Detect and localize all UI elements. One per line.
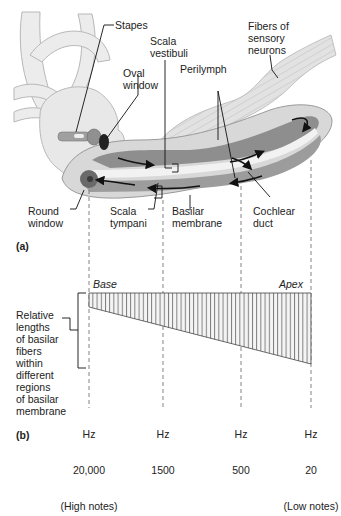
freq-note: (Low notes) [281,500,341,512]
freq-note: (High notes) [59,500,119,512]
freq-unit: Hz [133,428,193,440]
label-base: Base [93,278,117,290]
label-basilar-membrane: Basilar membrane [172,205,222,229]
basilar-fiber-length-wedge [89,293,311,364]
label-relative-lengths: Relative lengths of basilar fibers withi… [16,309,66,417]
label-round-window: Round window [28,205,63,229]
label-scala-tympani: Scala tympani [110,205,147,229]
label-oval-window: Oval window [123,67,158,91]
label-apex: Apex [279,278,303,290]
label-fibers-of-sensory-neurons: Fibers of sensory neurons [248,20,289,56]
label-stapes: Stapes [115,19,148,31]
freq-unit: Hz [211,428,271,440]
freq-value: 20,000 [59,464,119,476]
label-perilymph: Perilymph [180,63,227,75]
freq-value: 20 [281,464,341,476]
label-scala-vestibuli: Scala vestibuli [150,35,188,59]
oval-window [99,134,109,150]
freq-unit: Hz [281,428,341,440]
panel-b-tag: (b) [16,429,29,441]
label-cochlear-duct: Cochlear duct [253,205,295,229]
freq-value: 500 [211,464,271,476]
freq-marker-20: Hz 20 (Low notes) [281,404,341,516]
freq-unit: Hz [59,428,119,440]
freq-marker-1500: Hz 1500 [133,404,193,488]
freq-value: 1500 [133,464,193,476]
freq-marker-500: Hz 500 [211,404,271,488]
freq-marker-20000: Hz 20,000 (High notes) [59,404,119,516]
panel-a-tag: (a) [16,240,29,252]
